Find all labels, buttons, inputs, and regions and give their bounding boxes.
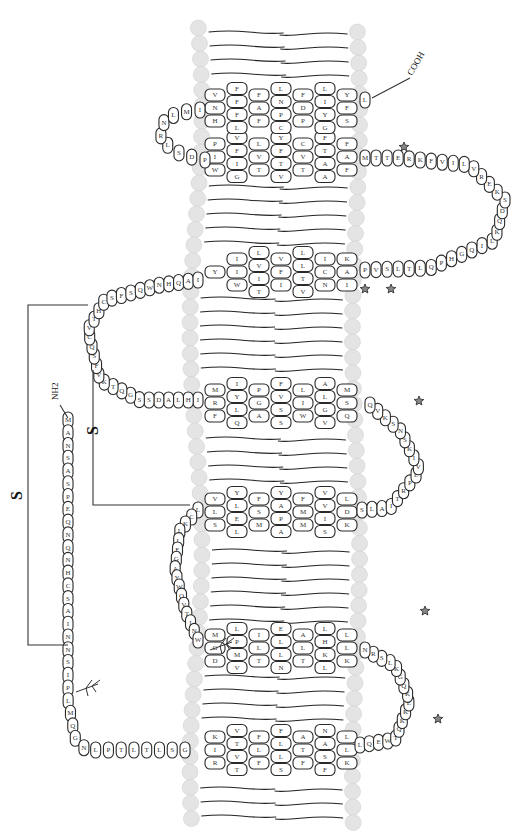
residue-label: L — [323, 85, 327, 93]
lipid-head — [183, 718, 199, 734]
lipid-head — [351, 567, 367, 583]
lipid-head — [348, 210, 364, 226]
lipid-tail — [275, 817, 343, 819]
lipid-head — [182, 764, 198, 780]
residue-label: Q — [138, 286, 143, 294]
residue-label: L — [157, 746, 161, 754]
residue-label: M — [300, 521, 307, 529]
lipid-head — [344, 768, 360, 784]
residue-label: T — [374, 154, 379, 162]
residue-label: P — [235, 638, 239, 646]
residue-label: N — [65, 646, 70, 654]
residue-label: V — [234, 664, 239, 672]
residue-label: F — [301, 495, 305, 503]
residue-label: L — [279, 85, 283, 93]
lipid-head — [351, 55, 367, 71]
residue-label: G — [234, 173, 239, 181]
lipid-head — [351, 598, 367, 614]
lipid-tail — [200, 787, 275, 789]
residue-label: T — [111, 383, 116, 391]
residue-label: M — [256, 521, 263, 529]
phosphorylation-star-icon — [433, 714, 443, 723]
residue-label: Q — [234, 419, 239, 427]
residue-label: M — [300, 508, 307, 516]
lipid-head — [345, 350, 361, 366]
lipid-head — [192, 51, 208, 67]
residue-label: S — [380, 654, 384, 662]
residue-label: R — [371, 650, 376, 658]
residue-label: G — [182, 746, 187, 754]
residue-label: D — [212, 657, 217, 665]
residue-label: L — [279, 638, 283, 646]
residue-label: K — [344, 759, 349, 767]
residue-label: H — [65, 569, 70, 577]
lipid-head — [352, 551, 368, 567]
lipid-tail — [212, 563, 287, 565]
residue-label: F — [257, 759, 261, 767]
residue-label: L — [257, 249, 261, 257]
residue-label: W — [212, 166, 219, 174]
lipid-tail — [207, 213, 282, 215]
residue-label: Q — [367, 740, 372, 748]
residue-label: V — [256, 262, 261, 270]
residue-label: T — [301, 275, 306, 283]
residue-label: Q — [70, 722, 75, 730]
residue-label: N — [212, 104, 217, 112]
residue-label: F — [279, 268, 283, 276]
lipid-head — [190, 20, 206, 36]
glycosylation-tree-icon — [76, 680, 100, 696]
residue-label: N — [81, 744, 86, 752]
residue-label: W — [300, 412, 307, 420]
lipid-tail — [205, 227, 280, 229]
residue-label: N — [278, 98, 283, 106]
lipid-tail — [278, 439, 346, 441]
residue-label: Y — [278, 489, 283, 497]
residue-label: V — [212, 495, 217, 503]
residue-label: L — [396, 265, 400, 273]
residue-label: A — [65, 607, 70, 615]
residue-label: S — [360, 506, 364, 514]
lipid-tail — [281, 75, 349, 77]
lipid-tail — [275, 789, 343, 791]
residue-label: S — [345, 399, 349, 407]
lipid-head — [350, 40, 366, 56]
residue-label: F — [257, 91, 261, 99]
residue-label: E — [235, 515, 239, 523]
lipid-head — [186, 671, 202, 687]
lipid-tail — [279, 453, 347, 455]
lipid-head — [194, 547, 210, 563]
lipid-tail — [200, 339, 275, 341]
residue-label: C — [301, 140, 306, 148]
lipid-tail — [281, 579, 349, 581]
residue-label: T — [323, 147, 328, 155]
residue-label: S — [279, 766, 283, 774]
residue-label: K — [322, 651, 327, 659]
residue-label: H — [449, 255, 454, 263]
lipid-tail — [205, 675, 280, 677]
lipid-tail — [278, 229, 346, 231]
lipid-tail — [206, 437, 281, 439]
lipid-tail — [209, 185, 284, 187]
residue-label: V — [374, 266, 379, 274]
residue-label: V — [278, 255, 283, 263]
lipid-head — [192, 594, 208, 610]
residue-label: A — [278, 502, 283, 510]
residue-label: T — [385, 154, 390, 162]
lipid-head — [187, 222, 203, 238]
phosphorylation-star-icon — [386, 284, 396, 293]
residue-label: F — [301, 759, 305, 767]
intracellular-loop-2: SLAITRPLVIKSNSKVQ — [357, 397, 423, 518]
residue-label: E — [376, 738, 380, 746]
residue-label: N — [65, 442, 70, 450]
lipid-head — [182, 780, 198, 796]
residue-label: E — [66, 505, 70, 513]
residue-label: R — [407, 155, 412, 163]
residue-label: F — [235, 147, 239, 155]
residue-label: T — [301, 166, 306, 174]
residue-label: P — [257, 386, 261, 394]
residue-label: P — [279, 515, 283, 523]
residue-label: G — [459, 250, 464, 258]
residue-label: S — [170, 746, 174, 754]
transmembrane-helices: KIRVTVTFLFFLLSATFNASFLLKMGDLPMVILTELLNAL… — [205, 83, 357, 776]
lipid-head — [346, 691, 362, 707]
